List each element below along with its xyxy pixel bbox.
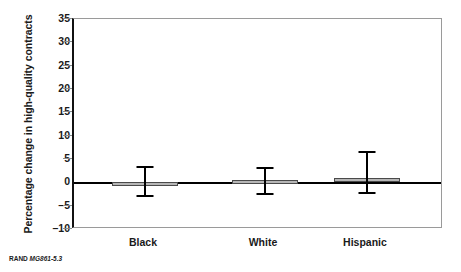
y-tick-mark xyxy=(63,135,72,136)
caption-figure-code: MG861-5.3 xyxy=(30,255,63,262)
error-bar-cap-bottom xyxy=(257,193,274,195)
plot-area xyxy=(72,18,442,228)
error-bar-black xyxy=(133,166,157,195)
error-bar-cap-top xyxy=(359,151,376,153)
figure-caption: RAND MG861-5.3 xyxy=(9,255,62,262)
x-tick-label-white: White xyxy=(249,236,278,248)
error-bar-hispanic xyxy=(355,151,379,192)
error-bar-cap-bottom xyxy=(137,195,154,197)
y-tick-mark xyxy=(63,205,72,206)
y-tick-label: 0 xyxy=(34,175,70,187)
x-tick-label-black: Black xyxy=(129,236,157,248)
y-tick-mark xyxy=(63,158,72,159)
error-bar-cap-top xyxy=(257,167,274,169)
error-bar-stem xyxy=(264,167,266,193)
error-bar-cap-top xyxy=(137,166,154,168)
y-tick-mark xyxy=(63,228,72,229)
error-bar-stem xyxy=(144,166,146,195)
y-tick-mark xyxy=(63,88,72,89)
y-tick-mark xyxy=(63,41,72,42)
figure-container: Percentage change in high-quality contra… xyxy=(0,0,461,272)
error-bar-cap-bottom xyxy=(359,192,376,194)
error-bar-stem xyxy=(366,151,368,192)
x-tick-label-hispanic: Hispanic xyxy=(343,236,387,248)
y-tick-mark xyxy=(63,65,72,66)
caption-publisher: RAND xyxy=(9,255,28,262)
error-bar-white xyxy=(253,167,277,193)
y-tick-mark xyxy=(63,111,72,112)
y-tick-mark xyxy=(63,18,72,19)
